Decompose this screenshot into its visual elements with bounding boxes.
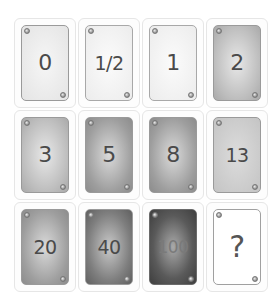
corner-pip-icon [152,28,158,34]
card-slot-20: 20 [14,202,76,292]
card-value: 0 [38,52,52,74]
card-value: 2 [230,52,244,74]
corner-pip-icon [188,276,194,282]
corner-pip-icon [124,184,130,190]
corner-pip-icon [152,120,158,126]
corner-pip-icon [60,92,66,98]
card-slot-8: 8 [142,110,204,200]
corner-pip-icon [252,184,258,190]
poker-card-3: 3 [21,117,69,193]
corner-pip-icon [60,276,66,282]
card-value: 1 [166,52,180,74]
card-value: 13 [225,146,248,165]
corner-pip-icon [216,28,222,34]
card-value: 5 [102,144,116,166]
poker-card-5: 5 [85,117,133,193]
corner-pip-icon [88,120,94,126]
poker-card-half: 1/2 [85,25,133,101]
corner-pip-icon [124,92,130,98]
poker-card-2: 2 [213,25,261,101]
corner-pip-icon [152,212,158,218]
corner-pip-icon [216,120,222,126]
card-value: 100 [158,239,189,256]
corner-pip-icon [24,212,30,218]
corner-pip-icon [24,28,30,34]
poker-card-100: 100 [149,209,197,285]
card-slot-half: 1/2 [78,18,140,108]
card-slot-0: 0 [14,18,76,108]
card-value: ? [229,232,244,262]
poker-card-1: 1 [149,25,197,101]
card-deck-grid: 0 1/2 1 2 3 5 [14,18,268,292]
poker-card-20: 20 [21,209,69,285]
card-value: 3 [38,144,52,166]
corner-pip-icon [188,92,194,98]
corner-pip-icon [252,276,258,282]
card-slot-2: 2 [206,18,268,108]
card-slot-1: 1 [142,18,204,108]
card-slot-13: 13 [206,110,268,200]
corner-pip-icon [124,276,130,282]
poker-card-40: 40 [85,209,133,285]
corner-pip-icon [24,120,30,126]
corner-pip-icon [216,212,222,218]
corner-pip-icon [88,212,94,218]
poker-card-13: 13 [213,117,261,193]
corner-pip-icon [252,92,258,98]
card-slot-3: 3 [14,110,76,200]
poker-card-0: 0 [21,25,69,101]
card-slot-100: 100 [142,202,204,292]
poker-card-8: 8 [149,117,197,193]
card-value: 20 [33,238,56,257]
card-slot-5: 5 [78,110,140,200]
corner-pip-icon [88,28,94,34]
corner-pip-icon [60,184,66,190]
corner-pip-icon [188,184,194,190]
card-value: 1/2 [94,54,123,73]
card-slot-unknown: ? [206,202,268,292]
poker-card-unknown: ? [213,209,261,285]
card-value: 8 [166,144,180,166]
card-slot-40: 40 [78,202,140,292]
card-value: 40 [97,238,120,257]
